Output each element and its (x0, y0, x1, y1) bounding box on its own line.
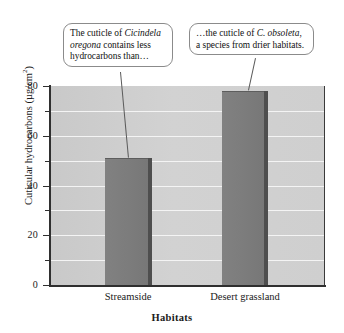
y-tick-20 (43, 235, 50, 236)
gridline-50 (50, 161, 324, 162)
bar-top-edge (105, 158, 152, 159)
callout-left-line-2-text: contains less (101, 40, 151, 50)
x-tick-label-desert-grassland: Desert grassland (190, 291, 300, 303)
callout-left-line-1: The cuticle of Cicindela (70, 28, 166, 40)
y-tick-0 (43, 285, 50, 286)
gridline-40 (50, 186, 324, 187)
callout-right-line-2: a species from drier habitats. (196, 40, 307, 52)
gridline-60 (50, 136, 324, 137)
plot-area (50, 86, 325, 285)
callout-right-line-1: …the cuticle of C. obsoleta, (196, 28, 307, 40)
y-tick-30 (45, 210, 50, 211)
bar-right-edge (148, 158, 152, 285)
bar-top-edge (222, 91, 268, 92)
callout-left-line-2: oregona contains less (70, 40, 166, 52)
callout-right: …the cuticle of C. obsoleta, a species f… (189, 23, 314, 55)
y-tick-60 (43, 136, 50, 137)
y-axis-title-tail: ) (23, 66, 34, 70)
callout-left-line-3: hydrocarbons than… (70, 51, 166, 63)
y-tick-50 (45, 161, 50, 162)
callout-right-line-1-comma: , (299, 28, 301, 38)
bar-right-edge (264, 91, 268, 285)
species-epithet-italic: oregona (70, 40, 101, 50)
x-axis-line (49, 285, 326, 287)
bar-streamside[interactable] (105, 158, 152, 285)
y-axis-title-main: Cuticular hydrocarbons (µg/cm (23, 73, 34, 205)
gridline-30 (50, 210, 324, 211)
bar-desert-grassland[interactable] (222, 91, 268, 285)
gridline-10 (50, 260, 324, 261)
gridline-70 (50, 111, 324, 112)
species-name-italic: Cicindela (124, 28, 160, 38)
y-tick-70 (45, 111, 50, 112)
y-tick-40 (43, 186, 50, 187)
y-tick-80 (43, 86, 50, 87)
y-axis-title: Cuticular hydrocarbons (µg/cm2) (23, 36, 34, 236)
bar-chart-figure: 80 60 40 20 0 Cuticular hydrocarbons (µg… (0, 0, 344, 333)
x-tick-label-streamside: Streamside (78, 291, 178, 303)
gridline-20 (50, 235, 324, 236)
x-axis-title: Habitats (0, 312, 344, 323)
callout-right-line-1-text: …the cuticle of (196, 28, 257, 38)
callout-left-line-1-text: The cuticle of (70, 28, 124, 38)
y-tick-label-0: 0 (33, 280, 38, 290)
callout-left: The cuticle of Cicindela oregona contain… (63, 23, 173, 67)
y-tick-10 (45, 260, 50, 261)
y-axis-title-superscript: 2 (21, 70, 29, 74)
species-abbrev-italic: C. obsoleta (257, 28, 300, 38)
